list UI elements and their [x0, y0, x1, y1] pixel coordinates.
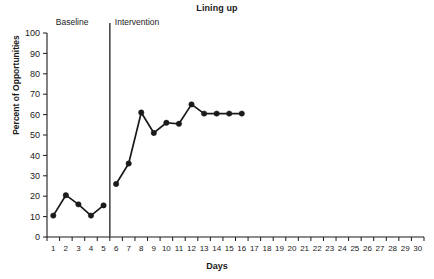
x-tick-label: 6	[114, 244, 119, 253]
data-point	[214, 111, 219, 116]
x-tick-label: 14	[212, 244, 221, 253]
x-tick-label: 1	[51, 244, 56, 253]
y-axis-ticks: 0102030405060708090100	[25, 28, 47, 242]
y-tick-label: 20	[30, 191, 40, 201]
data-point	[227, 111, 232, 116]
y-tick-label: 60	[30, 110, 40, 120]
x-tick-label: 28	[388, 244, 397, 253]
y-tick-label: 0	[35, 232, 40, 242]
x-tick-label: 30	[413, 244, 422, 253]
x-tick-label: 8	[139, 244, 144, 253]
data-point	[88, 213, 93, 218]
x-tick-label: 3	[76, 244, 81, 253]
y-tick-label: 30	[30, 171, 40, 181]
x-tick-label: 7	[126, 244, 131, 253]
x-axis-ticks: 1234567891011121314151617181920212223242…	[47, 237, 424, 253]
intervention-label: Intervention	[115, 17, 160, 27]
data-point	[113, 181, 118, 186]
x-tick-label: 24	[338, 244, 347, 253]
x-tick-label: 18	[262, 244, 271, 253]
chart-page: Lining up Percent of Opportunities Days …	[0, 0, 434, 279]
data-point	[51, 213, 56, 218]
y-tick-label: 40	[30, 151, 40, 161]
data-point	[239, 111, 244, 116]
x-tick-label: 22	[313, 244, 322, 253]
data-line-intervention	[116, 104, 242, 184]
data-point	[201, 111, 206, 116]
data-point	[76, 202, 81, 207]
data-point	[101, 203, 106, 208]
y-tick-label: 100	[25, 28, 40, 38]
data-point	[151, 130, 156, 135]
y-tick-label: 90	[30, 49, 40, 59]
x-tick-label: 11	[175, 244, 184, 253]
x-tick-label: 2	[64, 244, 69, 253]
phase-annotations: BaselineIntervention	[56, 17, 160, 27]
x-tick-label: 23	[325, 244, 334, 253]
y-tick-label: 70	[30, 89, 40, 99]
x-tick-label: 15	[225, 244, 234, 253]
x-tick-label: 13	[200, 244, 209, 253]
data-point	[63, 192, 68, 197]
data-point	[189, 102, 194, 107]
y-tick-label: 80	[30, 69, 40, 79]
x-tick-label: 9	[152, 244, 157, 253]
x-tick-label: 27	[376, 244, 385, 253]
chart-plot-area: 0102030405060708090100 12345678910111213…	[0, 0, 434, 279]
y-tick-label: 10	[30, 212, 40, 222]
x-tick-label: 16	[237, 244, 246, 253]
x-tick-label: 19	[275, 244, 284, 253]
x-tick-label: 25	[350, 244, 359, 253]
data-point	[164, 120, 169, 125]
x-tick-label: 20	[288, 244, 297, 253]
y-tick-label: 50	[30, 130, 40, 140]
x-tick-label: 10	[162, 244, 171, 253]
x-tick-label: 26	[363, 244, 372, 253]
data-point	[139, 110, 144, 115]
x-tick-label: 21	[300, 244, 309, 253]
data-point	[176, 121, 181, 126]
data-point	[126, 161, 131, 166]
x-tick-label: 5	[101, 244, 106, 253]
x-tick-label: 4	[89, 244, 94, 253]
x-tick-label: 12	[187, 244, 196, 253]
x-tick-label: 17	[250, 244, 259, 253]
baseline-label: Baseline	[56, 17, 89, 27]
x-tick-label: 29	[401, 244, 410, 253]
data-series-group	[51, 102, 245, 219]
